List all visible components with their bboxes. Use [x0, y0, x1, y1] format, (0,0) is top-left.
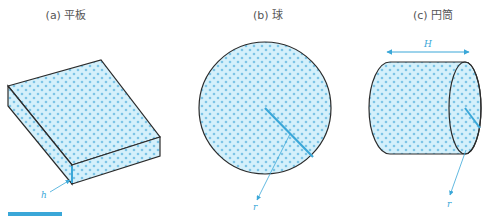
label-r-cylinder: r — [447, 199, 452, 209]
label-H: H — [423, 39, 432, 49]
geometry-diagram: h r H r — [0, 0, 487, 216]
sphere-figure: r — [199, 42, 331, 212]
thickness-leader — [50, 180, 70, 192]
cylinder-body — [369, 62, 481, 154]
cylinder-radius-leader — [450, 150, 466, 195]
label-r-sphere: r — [253, 202, 258, 212]
label-h: h — [41, 190, 47, 200]
flat-plate-figure: h — [8, 60, 160, 200]
cylinder-figure: H r — [369, 39, 481, 209]
accent-bar — [8, 212, 62, 216]
